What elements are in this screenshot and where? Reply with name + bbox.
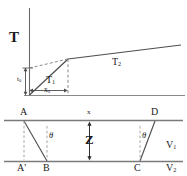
intercept-time-subscript: 0 (19, 78, 21, 83)
refracted-branch-label: T2 (112, 57, 121, 67)
point-label-a: A (20, 107, 27, 117)
crossover-distance-label: x0 (44, 86, 50, 94)
incidence-angle-label-left: θ (49, 131, 53, 140)
seismic-refraction-figure: T t0 x0 T1 T2 x A D A' B C θ θ Z V1 V2 (0, 0, 187, 176)
ray-path-a-to-b (24, 121, 47, 161)
crossover-distance-subscript: 0 (48, 89, 50, 94)
figure-canvas (0, 0, 187, 176)
point-label-c: C (134, 163, 141, 173)
ray-path-c-to-d (140, 121, 155, 161)
layer-depth-label: Z (85, 133, 94, 146)
velocity-label-lower-layer: V2 (166, 163, 176, 173)
velocity-lower-subscript: 2 (173, 166, 176, 173)
incidence-angle-label-right: θ (142, 131, 146, 140)
point-label-a-prime: A' (17, 163, 26, 173)
intercept-time-dimension-arrow (24, 68, 28, 96)
offset-distance-label: x (87, 109, 91, 116)
direct-branch-label: T1 (46, 75, 55, 85)
direct-branch-subscript: 1 (52, 78, 55, 85)
intercept-time-label: t0 (17, 76, 21, 83)
refracted-branch-subscript: 2 (118, 60, 121, 67)
t-axis-title: T (9, 30, 19, 45)
point-label-b: B (43, 163, 50, 173)
velocity-upper-subscript: 1 (173, 143, 176, 150)
point-label-d: D (151, 107, 158, 117)
velocity-label-upper-layer: V1 (166, 140, 176, 150)
refracted-wave-branch-t2 (68, 45, 181, 59)
intercept-projection-dashed (30, 59, 69, 68)
